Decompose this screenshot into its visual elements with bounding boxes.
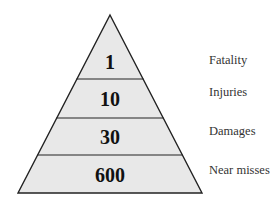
safety-pyramid-diagram: 1 10 30 600 Fatality Injuries Damages Ne… — [0, 0, 278, 201]
level-label-damages: Damages — [209, 124, 256, 138]
level-value-fatality: 1 — [105, 51, 115, 73]
level-value-damages: 30 — [100, 126, 120, 148]
level-label-fatality: Fatality — [209, 53, 248, 67]
level-label-near-misses: Near misses — [209, 163, 270, 177]
level-value-injuries: 10 — [100, 88, 120, 110]
level-label-injuries: Injuries — [209, 85, 247, 99]
level-value-near-misses: 600 — [95, 164, 125, 186]
